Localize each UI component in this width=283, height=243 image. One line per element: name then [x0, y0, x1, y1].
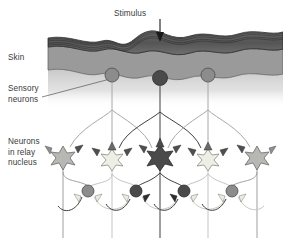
terminal-relay2-right	[124, 148, 132, 156]
axon-sensory-left-branch-l	[70, 110, 112, 147]
terminal-relay1-right	[75, 145, 83, 153]
relay-neuron-3	[147, 145, 173, 171]
interneuron-4	[226, 185, 238, 197]
terminal-inter4-left	[218, 194, 225, 202]
relay-neurons-label: Neurons in relay nucleus	[8, 137, 40, 169]
collateral-5	[160, 173, 182, 186]
interneuron-1	[82, 185, 94, 197]
collateral-7	[208, 174, 230, 186]
terminal-relay2-top	[108, 142, 116, 150]
collateral-4	[138, 173, 160, 186]
axon-sensory-right-branch-l	[168, 110, 208, 148]
terminal-relay3-left	[139, 145, 147, 153]
relay-neuron-somata	[51, 145, 269, 171]
terminal-relay5-left	[237, 145, 245, 153]
interneuron-2	[130, 185, 142, 197]
terminal-relay1-left	[45, 146, 52, 154]
terminal-relay4-top	[204, 142, 212, 150]
sensory-neuron-center	[153, 71, 168, 86]
neural-circuit-diagram	[0, 0, 283, 243]
relay-neuron-4	[197, 149, 219, 171]
stimulus-label: Stimulus	[114, 9, 146, 20]
axon-sensory-left-branch-r	[112, 110, 152, 148]
terminal-inter2-left	[122, 194, 129, 202]
axon-sensory-right-branch-r	[208, 110, 250, 147]
figure-canvas: Stimulus Skin Sensory neurons Neurons in…	[0, 0, 283, 243]
relay-neuron-5	[245, 146, 269, 170]
inhibitory-arcs	[58, 197, 264, 211]
collateral-8	[232, 172, 257, 186]
relay-output-axons	[63, 163, 257, 238]
interneuron-3	[178, 185, 190, 197]
terminal-inter3-left	[170, 194, 177, 202]
terminal-relay4-left	[188, 148, 196, 156]
collateral-6	[186, 174, 208, 186]
terminal-relay3-top	[156, 138, 164, 147]
terminal-relay3-right	[173, 145, 181, 153]
sensory-neuron-right	[201, 68, 215, 82]
relay-neuron-1	[51, 146, 75, 170]
sensory-neurons-label: Sensory neurons	[8, 84, 39, 105]
terminal-relay4-right	[220, 148, 228, 156]
collateral-1	[63, 172, 88, 186]
collateral-3	[112, 174, 136, 186]
skin-label: Skin	[8, 53, 24, 64]
terminal-relay2-left	[92, 148, 100, 156]
relay-neuron-2	[101, 149, 123, 171]
collateral-2	[90, 174, 112, 186]
skin-group	[48, 31, 283, 108]
sensory-neuron-left	[105, 68, 119, 82]
terminal-relay5-right	[269, 146, 276, 154]
